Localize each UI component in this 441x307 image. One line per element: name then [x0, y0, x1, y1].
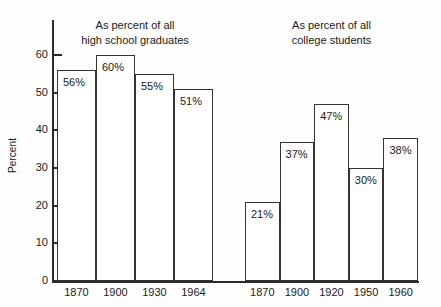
x-axis-tick-label: 1900 [96, 287, 135, 298]
bar-value-label: 21% [251, 209, 273, 220]
bar [96, 55, 135, 281]
x-axis-tick-label: 1870 [57, 287, 96, 298]
x-axis-tick-label: 1930 [135, 287, 174, 298]
bar [314, 104, 349, 281]
bar-value-label: 47% [320, 111, 342, 122]
bar [174, 89, 213, 281]
bar-value-label: 37% [286, 149, 308, 160]
x-axis-tick-label: 1950 [349, 287, 384, 298]
bar [383, 138, 418, 281]
bar [57, 70, 96, 281]
bar-value-label: 51% [180, 96, 202, 107]
x-axis-tick-label: 1870 [245, 287, 280, 298]
x-axis-tick-label: 1920 [314, 287, 349, 298]
bar-chart: Percent 0102030405060 56%60%55%51%21%37%… [0, 0, 441, 307]
bar-value-label: 30% [355, 175, 377, 186]
x-axis-tick-label: 1960 [383, 287, 418, 298]
bar-value-label: 38% [389, 145, 411, 156]
bar-value-label: 56% [63, 77, 85, 88]
bar-value-label: 60% [102, 62, 124, 73]
x-axis-tick-label: 1964 [174, 287, 213, 298]
group-annotation: As percent of all college students [252, 18, 412, 48]
bar [135, 74, 174, 281]
bar-value-label: 55% [141, 81, 163, 92]
group-annotation: As percent of all high school graduates [55, 18, 215, 48]
x-axis-tick-label: 1900 [280, 287, 315, 298]
bar [280, 142, 315, 281]
